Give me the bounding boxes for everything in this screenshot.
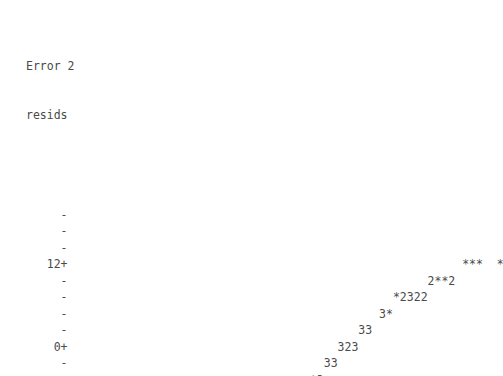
plot-row: - [26,207,503,224]
plot-row [26,190,503,207]
plot-rows: - - * - 12+ *** * * - [26,173,503,376]
character-plot: Error 2 resids - - * - 12+ *** * [26,8,503,376]
plot-row: - 3* [26,306,503,323]
plot-row: - 2**2 [26,273,503,290]
plot-row: - 33 [26,322,503,339]
plot-row: - *2322 [26,289,503,306]
plot-row [26,173,503,190]
plot-row: 12+ *** * * [26,256,503,273]
y-axis-title-line2: resids [26,107,503,124]
y-axis-title-line1: Error 2 [26,58,503,75]
ascii-plot-container: Error 2 resids - - * - 12+ *** * [0,0,503,376]
plot-row: - *3 [26,372,503,376]
plot-row: - 33 [26,355,503,372]
plot-row: - [26,240,503,257]
plot-row: 0+ 323 [26,339,503,356]
plot-row: - * [26,223,503,240]
